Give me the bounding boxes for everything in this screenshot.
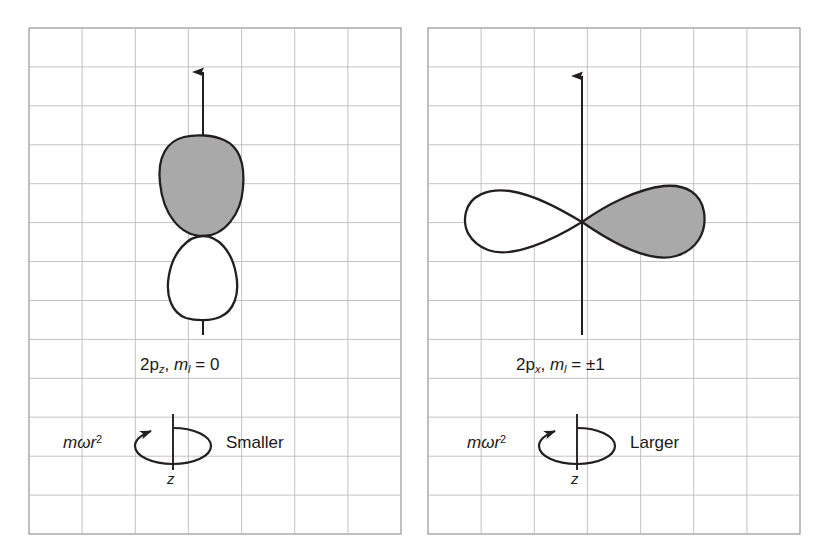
panel-left-quantum-symbol: m bbox=[174, 355, 188, 374]
panel-right-grid bbox=[428, 28, 800, 534]
panel-left-quantum-value: 0 bbox=[210, 355, 219, 374]
panel-right-formula: mωr2 bbox=[467, 433, 506, 453]
panel-right-orbital-comma: , bbox=[540, 355, 549, 374]
panel-right-formula-exponent: 2 bbox=[500, 433, 506, 445]
panel-left-z-label: z bbox=[167, 470, 175, 487]
orbital-comparison-figure bbox=[0, 0, 829, 555]
panel-right-quantum-symbol: m bbox=[550, 355, 564, 374]
panel-right bbox=[428, 28, 800, 534]
panel-right-border bbox=[428, 28, 800, 534]
panel-left-equals: = bbox=[191, 355, 210, 374]
panel-left-formula-exponent: 2 bbox=[96, 433, 102, 445]
panel-left-orbital-label: 2pz, ml = 0 bbox=[140, 355, 219, 375]
panel-left-formula-base: mωr bbox=[63, 433, 96, 452]
panel-left bbox=[29, 28, 401, 534]
panel-right-orbital-prefix: 2p bbox=[516, 355, 535, 374]
panel-right-quantum-value: ±1 bbox=[586, 355, 605, 374]
panel-right-z-label: z bbox=[571, 470, 579, 487]
panel-left-formula: mωr2 bbox=[63, 433, 102, 453]
panel-right-orbital-label: 2px, ml = ±1 bbox=[516, 355, 605, 375]
panel-right-magnitude-label: Larger bbox=[630, 433, 679, 453]
panel-right-formula-base: mωr bbox=[467, 433, 500, 452]
panel-left-orbital-comma: , bbox=[164, 355, 173, 374]
panel-left-orbital-prefix: 2p bbox=[140, 355, 159, 374]
panel-left-magnitude-label: Smaller bbox=[226, 433, 284, 453]
panel-right-equals: = bbox=[567, 355, 586, 374]
